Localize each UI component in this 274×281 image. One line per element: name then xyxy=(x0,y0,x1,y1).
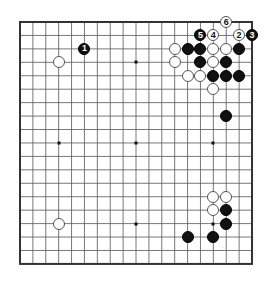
black-stone xyxy=(182,43,194,55)
white-stone xyxy=(220,43,232,55)
black-stone xyxy=(233,43,245,55)
white-stone-move-4: 4 xyxy=(207,29,219,41)
black-stone xyxy=(194,56,206,68)
go-board[interactable]: 123456 xyxy=(0,0,274,281)
hoshi-point xyxy=(135,222,138,225)
black-stone xyxy=(220,218,232,230)
white-stone-move-2: 2 xyxy=(233,29,245,41)
white-stone xyxy=(53,56,65,68)
white-stone xyxy=(207,191,219,203)
white-stone xyxy=(207,83,219,95)
black-stone xyxy=(220,56,232,68)
white-stone xyxy=(53,218,65,230)
white-stone xyxy=(182,70,194,82)
white-stone xyxy=(194,70,206,82)
hoshi-point xyxy=(57,141,60,144)
white-stone xyxy=(169,43,181,55)
white-stone xyxy=(169,56,181,68)
black-stone xyxy=(207,70,219,82)
hoshi-point xyxy=(212,222,215,225)
black-stone xyxy=(220,70,232,82)
black-stone xyxy=(233,70,245,82)
black-stone xyxy=(182,231,194,243)
white-stone xyxy=(207,43,219,55)
black-stone xyxy=(194,43,206,55)
white-stone-move-6: 6 xyxy=(220,16,232,28)
black-stone xyxy=(220,110,232,122)
black-stone-move-1: 1 xyxy=(78,43,90,55)
white-stone xyxy=(207,204,219,216)
white-stone xyxy=(207,56,219,68)
black-stone-move-5: 5 xyxy=(194,29,206,41)
hoshi-point xyxy=(135,61,138,64)
black-stone xyxy=(220,204,232,216)
hoshi-point xyxy=(212,141,215,144)
hoshi-point xyxy=(135,141,138,144)
white-stone xyxy=(220,191,232,203)
black-stone xyxy=(207,231,219,243)
black-stone-move-3: 3 xyxy=(246,29,258,41)
